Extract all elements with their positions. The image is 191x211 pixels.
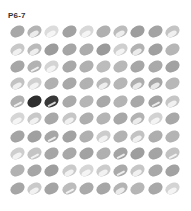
ellipse-sample bbox=[94, 110, 112, 127]
ellipse-sample bbox=[26, 41, 44, 58]
ellipse-sample bbox=[77, 128, 95, 145]
ellipse-sample bbox=[163, 180, 181, 197]
grid-cell bbox=[26, 127, 43, 144]
ellipse-sample bbox=[8, 23, 26, 40]
grid-cell bbox=[78, 110, 95, 127]
grid-cell bbox=[129, 75, 146, 92]
ellipse-sample bbox=[60, 180, 78, 197]
ellipse-sample bbox=[77, 41, 95, 58]
ellipse-sample bbox=[129, 23, 147, 40]
grid-cell bbox=[43, 145, 60, 162]
grid-cell bbox=[164, 93, 181, 110]
grid-cell bbox=[26, 180, 43, 197]
ellipse-sample bbox=[8, 110, 26, 127]
grid-cell bbox=[112, 145, 129, 162]
ellipse-sample bbox=[26, 75, 44, 92]
grid-cell bbox=[9, 180, 26, 197]
grid-cell bbox=[95, 162, 112, 179]
ellipse-sample bbox=[60, 145, 78, 162]
ellipse-sample bbox=[77, 58, 95, 75]
grid-cell bbox=[61, 75, 78, 92]
grid-cell bbox=[164, 145, 181, 162]
grid-cell bbox=[147, 75, 164, 92]
grid-cell bbox=[112, 40, 129, 57]
ellipse-sample bbox=[60, 41, 78, 58]
ellipse-sample bbox=[26, 162, 44, 179]
ellipse-sample bbox=[60, 58, 78, 75]
ellipse-sample bbox=[43, 128, 61, 145]
ellipse-sample bbox=[8, 75, 26, 92]
grid-cell bbox=[112, 162, 129, 179]
ellipse-sample bbox=[77, 180, 95, 197]
ellipse-sample bbox=[26, 145, 44, 162]
grid-cell bbox=[164, 58, 181, 75]
grid-cell bbox=[112, 58, 129, 75]
grid-cell bbox=[112, 93, 129, 110]
grid-cell bbox=[95, 40, 112, 57]
grid-cell bbox=[61, 110, 78, 127]
ellipse-sample bbox=[8, 128, 26, 145]
ellipse-sample bbox=[8, 41, 26, 58]
ellipse-sample bbox=[146, 128, 164, 145]
grid-cell bbox=[9, 162, 26, 179]
grid-cell bbox=[61, 145, 78, 162]
ellipse-sample bbox=[146, 145, 164, 162]
ellipse-sample bbox=[146, 75, 164, 92]
ellipse-sample bbox=[112, 180, 130, 197]
ellipse-sample bbox=[26, 110, 44, 127]
ellipse-sample bbox=[163, 128, 181, 145]
grid-cell bbox=[112, 23, 129, 40]
grid-cell bbox=[147, 93, 164, 110]
ellipse-sample bbox=[112, 75, 130, 92]
grid-cell bbox=[9, 110, 26, 127]
grid-cell bbox=[147, 127, 164, 144]
grid-cell bbox=[129, 58, 146, 75]
grid-cell bbox=[95, 23, 112, 40]
ellipse-sample bbox=[60, 110, 78, 127]
ellipse-sample bbox=[163, 41, 181, 58]
ellipse-sample bbox=[112, 41, 130, 58]
grid-cell bbox=[129, 180, 146, 197]
grid-cell bbox=[129, 162, 146, 179]
ellipse-sample bbox=[146, 110, 164, 127]
grid-cell bbox=[78, 180, 95, 197]
ellipse-sample bbox=[77, 110, 95, 127]
grid-cell bbox=[129, 93, 146, 110]
grid-cell bbox=[78, 23, 95, 40]
ellipse-grid bbox=[9, 23, 181, 197]
ellipse-sample bbox=[43, 41, 61, 58]
grid-cell bbox=[164, 162, 181, 179]
grid-cell bbox=[78, 75, 95, 92]
ellipse-sample bbox=[43, 93, 61, 110]
ellipse-sample bbox=[129, 75, 147, 92]
grid-cell bbox=[43, 180, 60, 197]
grid-cell bbox=[9, 58, 26, 75]
ellipse-sample bbox=[94, 180, 112, 197]
grid-cell bbox=[164, 180, 181, 197]
ellipse-sample bbox=[43, 162, 61, 179]
ellipse-sample bbox=[94, 128, 112, 145]
grid-cell bbox=[43, 127, 60, 144]
ellipse-sample bbox=[163, 145, 181, 162]
grid-cell bbox=[147, 180, 164, 197]
grid-cell bbox=[9, 93, 26, 110]
grid-cell bbox=[147, 40, 164, 57]
ellipse-sample bbox=[94, 41, 112, 58]
ellipse-sample bbox=[8, 93, 26, 110]
ellipse-sample bbox=[26, 58, 44, 75]
ellipse-sample bbox=[8, 58, 26, 75]
ellipse-sample bbox=[146, 180, 164, 197]
ellipse-sample bbox=[8, 145, 26, 162]
panel-label: P6-7 bbox=[8, 11, 26, 20]
grid-cell bbox=[43, 93, 60, 110]
grid-cell bbox=[164, 127, 181, 144]
ellipse-sample bbox=[112, 110, 130, 127]
grid-cell bbox=[43, 110, 60, 127]
grid-cell bbox=[26, 145, 43, 162]
grid-cell bbox=[26, 23, 43, 40]
grid-cell bbox=[112, 180, 129, 197]
ellipse-sample bbox=[26, 128, 44, 145]
ellipse-sample bbox=[163, 93, 181, 110]
grid-cell bbox=[61, 23, 78, 40]
grid-cell bbox=[9, 127, 26, 144]
